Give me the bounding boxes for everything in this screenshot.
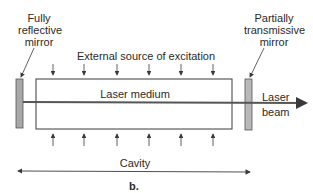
partially-transmissive-mirror (245, 79, 252, 130)
cavity-arrow (18, 171, 250, 172)
fully-reflective-mirror (16, 79, 23, 128)
left-mirror-pointer (21, 48, 34, 77)
laser-medium-box (36, 79, 232, 129)
laser-medium-label: Laser medium (90, 88, 180, 100)
excitation-label: External source of excitation (66, 50, 226, 62)
right-mirror-label: Partially transmissive mirror (244, 12, 304, 48)
right-mirror-pointer (250, 48, 264, 77)
laser-beam-label: Laser beam (262, 90, 296, 120)
cavity-label: Cavity (110, 157, 160, 169)
bottom-excitation-arrows (53, 134, 213, 146)
top-excitation-arrows (53, 64, 213, 75)
left-mirror-label: Fully reflective mirror (18, 12, 60, 48)
figure-caption: b. (124, 180, 144, 192)
